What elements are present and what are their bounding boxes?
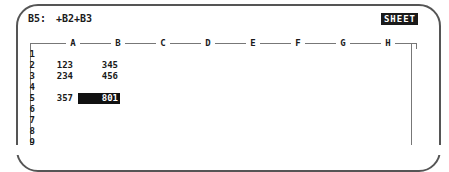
column-header-f[interactable]: F	[291, 38, 305, 49]
spreadsheet-grid: ABCDEFGH 121233453234456453578016789	[25, 38, 417, 148]
column-header-row: ABCDEFGH	[30, 38, 417, 49]
cell-A3[interactable]: 234	[33, 71, 75, 82]
table-row: 8	[25, 126, 417, 137]
table-row: 3234456	[25, 71, 417, 82]
table-row: 4	[25, 82, 417, 93]
formula-bar: B5: +B2+B3 SHEET	[25, 12, 425, 30]
cell-B3[interactable]: 456	[78, 71, 120, 82]
table-row: 2123345	[25, 60, 417, 71]
row-header-1[interactable]: 1	[25, 49, 35, 60]
row-header-7[interactable]: 7	[25, 115, 35, 126]
column-header-rule	[30, 43, 417, 44]
table-row: 7	[25, 115, 417, 126]
column-header-a[interactable]: A	[66, 38, 80, 49]
formula-text[interactable]: +B2+B3	[56, 13, 92, 24]
table-row: 1	[25, 49, 417, 60]
table-row: 6	[25, 104, 417, 115]
cell-A5[interactable]: 357	[33, 93, 75, 104]
cell-A2[interactable]: 123	[33, 60, 75, 71]
column-header-d[interactable]: D	[201, 38, 215, 49]
row-header-8[interactable]: 8	[25, 126, 35, 137]
column-header-h[interactable]: H	[381, 38, 395, 49]
row-header-6[interactable]: 6	[25, 104, 35, 115]
column-header-c[interactable]: C	[156, 38, 170, 49]
status-badge-sheet: SHEET	[381, 13, 418, 25]
cell-B2[interactable]: 345	[78, 60, 120, 71]
table-row: 5357801	[25, 93, 417, 104]
row-header-4[interactable]: 4	[25, 82, 35, 93]
column-header-g[interactable]: G	[336, 38, 350, 49]
column-header-e[interactable]: E	[246, 38, 260, 49]
column-header-b[interactable]: B	[111, 38, 125, 49]
lcd-screen: B5: +B2+B3 SHEET ABCDEFGH 12123345323445…	[25, 12, 425, 148]
bottom-crop-mask	[0, 145, 449, 150]
device-bezel: B5: +B2+B3 SHEET ABCDEFGH 12123345323445…	[0, 0, 449, 150]
active-cell-reference: B5:	[28, 13, 46, 24]
selected-cell-B5[interactable]: 801	[78, 93, 120, 104]
